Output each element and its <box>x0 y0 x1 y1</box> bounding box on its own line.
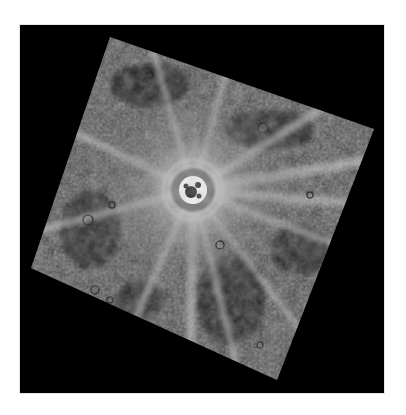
surface-image <box>0 0 406 415</box>
terrain <box>0 0 406 415</box>
